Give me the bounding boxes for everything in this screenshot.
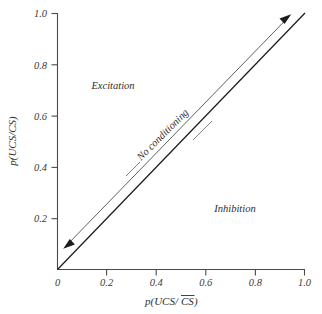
y-tick-label-0.4: 0.4	[34, 162, 48, 173]
no-conditioning-label: No conditioning	[134, 107, 191, 164]
x-axis-title-prefix: p(UCS/	[144, 295, 179, 308]
x-tick-labels: 0 0.2 0.4 0.6 0.8 1.0	[55, 277, 312, 288]
x-tick-label-0.6: 0.6	[199, 277, 213, 288]
arrowhead-lower-left	[63, 239, 75, 249]
identity-diagonal-line	[58, 13, 306, 270]
x-axis-title-suffix: )	[193, 295, 198, 308]
no-conditioning-arrow	[63, 14, 291, 249]
x-tick-label-0.8: 0.8	[249, 277, 263, 288]
y-tick-label-0.2: 0.2	[34, 213, 48, 224]
diagonal-contingency-plot: 1.0 0.8 0.6 0.4 0.2 0 0.2 0.4 0.6 0.8 1.…	[0, 0, 322, 314]
inhibition-label: Inhibition	[213, 203, 255, 214]
x-tick-label-0: 0	[55, 277, 61, 288]
y-tick-label-0.6: 0.6	[34, 111, 48, 122]
excitation-label: Excitation	[90, 80, 134, 91]
x-axis-title-overbar-text: CS	[181, 295, 194, 307]
x-axis-title-group: p(UCS/ CS )	[144, 295, 198, 308]
y-tick-label-0.8: 0.8	[34, 60, 48, 71]
x-tick-label-0.2: 0.2	[100, 277, 114, 288]
x-tick-label-0.4: 0.4	[150, 277, 164, 288]
arrowhead-upper-right	[280, 14, 292, 24]
x-tick-marks	[107, 270, 305, 276]
chart-figure: 1.0 0.8 0.6 0.4 0.2 0 0.2 0.4 0.6 0.8 1.…	[0, 0, 322, 314]
no-conditioning-label-group: No conditioning	[134, 107, 191, 164]
y-tick-labels: 1.0 0.8 0.6 0.4 0.2	[34, 8, 48, 224]
x-tick-label-1.0: 1.0	[298, 277, 312, 288]
no-conditioning-leader-line-left	[126, 162, 140, 176]
no-conditioning-leader-line	[193, 121, 212, 140]
y-tick-label-1.0: 1.0	[34, 8, 48, 19]
y-tick-marks	[52, 14, 58, 219]
y-axis-title: p(UCS/CS)	[6, 116, 19, 167]
